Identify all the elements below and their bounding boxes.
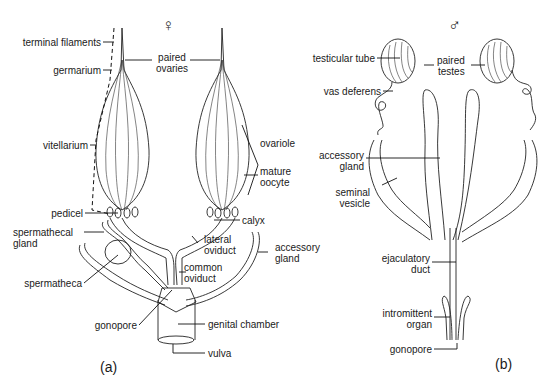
label-common-oviduct-2: oviduct: [184, 273, 216, 284]
label-accessory-gland-female-1: accessory: [275, 242, 320, 253]
label-germarium: germarium: [20, 65, 101, 76]
reproductive-system-diagram: ♀ terminal filaments germarium vitellari…: [0, 0, 550, 381]
female-symbol: ♀: [162, 17, 175, 34]
panel-label-a: (a): [100, 359, 117, 375]
label-accessory-gland-male-2: gland: [305, 161, 364, 172]
label-ejaculatory-duct-1: ejaculatory: [360, 253, 430, 264]
label-paired-testes-1: paired: [437, 55, 465, 66]
label-common-oviduct-1: common: [184, 262, 222, 273]
male-symbol: ♂: [448, 17, 461, 34]
label-vitellarium: vitellarium: [15, 140, 88, 151]
label-spermathecal-gland-2: gland: [13, 238, 37, 249]
label-spermatheca: spermatheca: [10, 278, 82, 289]
label-seminal-vesicle-2: vesicle: [320, 198, 370, 209]
label-mature-oocyte-1: mature: [260, 166, 291, 177]
label-accessory-gland-female-2: gland: [275, 253, 299, 264]
label-vas-deferens: vas deferens: [305, 86, 381, 97]
label-testicular-tube: testicular tube: [295, 53, 375, 64]
label-vulva: vulva: [208, 348, 231, 359]
label-lateral-oviduct-2: oviduct: [204, 245, 236, 256]
label-lateral-oviduct-1: lateral: [204, 234, 231, 245]
label-terminal-filaments: terminal filaments: [5, 37, 101, 48]
label-gonopore-female: gonopore: [80, 320, 137, 331]
left-testis: [381, 39, 415, 83]
label-gonopore-male: gonopore: [370, 344, 432, 355]
label-genital-chamber: genital chamber: [208, 319, 279, 330]
label-paired-testes-2: testes: [438, 66, 465, 77]
panel-label-b: (b): [495, 356, 512, 372]
label-paired-ovaries-2: ovaries: [152, 63, 192, 74]
label-paired-ovaries-1: paired: [152, 52, 192, 63]
right-ovary: [196, 28, 249, 218]
left-ovary: [96, 28, 149, 218]
label-intromittent-organ-2: organ: [360, 319, 432, 330]
label-mature-oocyte-2: oocyte: [260, 177, 289, 188]
label-pedicel: pedicel: [30, 208, 83, 219]
label-accessory-gland-male-1: accessory: [305, 150, 364, 161]
label-calyx: calyx: [242, 215, 265, 226]
label-seminal-vesicle-1: seminal: [320, 187, 370, 198]
label-intromittent-organ-1: intromittent: [360, 308, 432, 319]
label-ovariole: ovariole: [260, 138, 295, 149]
label-ejaculatory-duct-2: duct: [360, 264, 430, 275]
right-testis: [480, 39, 514, 83]
label-spermathecal-gland-1: spermathecal: [13, 227, 73, 238]
